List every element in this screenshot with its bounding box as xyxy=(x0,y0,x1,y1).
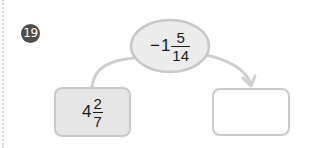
input-mixed-number: 4 2 7 xyxy=(82,96,103,129)
operator-numerator: 5 xyxy=(176,30,186,46)
operator-sign: − xyxy=(150,36,160,56)
operator-node: − 1 5 14 xyxy=(130,19,210,73)
input-box: 4 2 7 xyxy=(54,87,131,137)
input-whole: 4 xyxy=(82,102,91,122)
input-denominator: 7 xyxy=(93,112,103,129)
answer-box[interactable] xyxy=(212,88,290,136)
operator-denominator: 14 xyxy=(171,46,190,63)
operator-whole: 1 xyxy=(161,36,170,56)
operator-mixed-number: − 1 5 14 xyxy=(150,30,190,63)
operator-fraction: 5 14 xyxy=(171,30,190,63)
input-numerator: 2 xyxy=(93,96,103,112)
problem-number-badge: 19 xyxy=(21,24,40,43)
curved-connector-left xyxy=(92,58,134,87)
input-fraction: 2 7 xyxy=(93,96,103,129)
